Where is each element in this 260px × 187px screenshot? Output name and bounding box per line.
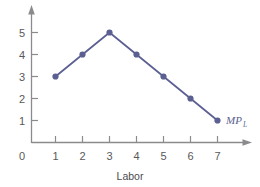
- data-point-5: [160, 73, 166, 79]
- data-point-7: [214, 117, 220, 123]
- y-tick-label-5: 5: [19, 27, 25, 39]
- y-tick-label-4: 4: [19, 49, 25, 61]
- data-point-1: [52, 73, 58, 79]
- x-axis-title: Labor: [117, 170, 144, 182]
- origin-label: 0: [19, 150, 25, 162]
- x-tick-label-2: 2: [79, 150, 85, 162]
- data-point-6: [187, 95, 193, 101]
- x-tick-label-3: 3: [106, 150, 112, 162]
- x-tick-label-6: 6: [187, 150, 193, 162]
- x-tick-label-5: 5: [160, 150, 166, 162]
- y-tick-label-3: 3: [19, 71, 25, 83]
- y-tick-label-2: 2: [19, 93, 25, 105]
- y-tick-label-1: 1: [19, 115, 25, 127]
- marginal-product-of-labor-chart: 1 2 3 4 5 0 1 2 3 4 5 6 7: [0, 0, 260, 187]
- x-tick-label-7: 7: [214, 150, 220, 162]
- data-point-3: [106, 29, 112, 35]
- series-label-subscript: L: [242, 120, 247, 129]
- chart-background: [0, 0, 260, 187]
- x-tick-label-1: 1: [52, 150, 58, 162]
- chart-container: 1 2 3 4 5 0 1 2 3 4 5 6 7: [0, 0, 260, 187]
- data-point-2: [79, 51, 85, 57]
- data-point-4: [133, 51, 139, 57]
- x-tick-label-4: 4: [133, 150, 139, 162]
- series-label-main: MP: [225, 114, 242, 126]
